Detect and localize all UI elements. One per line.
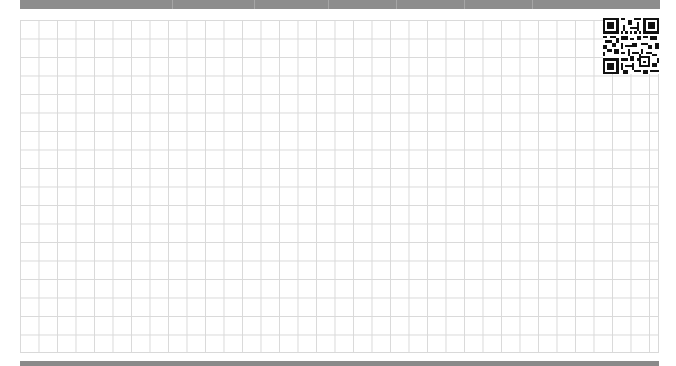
top-bar bbox=[20, 0, 660, 9]
bottom-bar bbox=[20, 361, 659, 366]
top-bar-divider bbox=[532, 0, 533, 9]
grid-paper bbox=[20, 20, 659, 353]
top-bar-divider bbox=[464, 0, 465, 9]
qr-code-icon bbox=[603, 18, 659, 74]
top-bar-divider bbox=[396, 0, 397, 9]
top-bar-divider bbox=[172, 0, 173, 9]
top-bar-divider bbox=[254, 0, 255, 9]
top-bar-divider bbox=[328, 0, 329, 9]
